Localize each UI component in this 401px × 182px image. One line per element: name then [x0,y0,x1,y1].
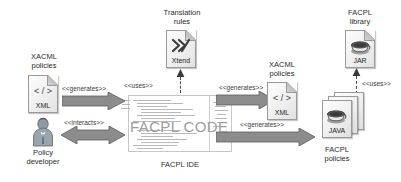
person-icon [30,117,56,147]
translation-rules-label: Translation rules [142,8,222,26]
code-line [133,100,171,101]
coffee-cup-icon [350,38,373,59]
file-fold-icon [47,75,58,86]
code-line [137,148,163,149]
uses-jar-label: <<uses>> [362,80,391,88]
code-line [137,103,183,104]
code-line [133,145,177,146]
xtend-file-icon: Xtend [166,30,196,68]
file-fold-icon [286,82,297,93]
xtend-glyph-icon [167,38,195,57]
code-line [137,106,167,107]
code-line [141,112,181,113]
xml-angle-glyph-icon: < / > [29,86,57,96]
xml-file-icon-in: < / > XML [28,75,58,113]
code-line [141,142,179,143]
code-line [141,136,173,137]
generates-left-label: <<generates>> [62,85,106,93]
generates-xml-label: <<generates>> [219,84,263,92]
interacts-arrow [60,126,126,144]
code-line [217,114,226,115]
jar-badge-label: JAR [346,57,374,64]
xml-badge-label: XML [29,102,57,109]
generates-java-label: <<generates>> [240,121,284,129]
stack-sheet-front: JAVA [322,100,352,138]
code-line [141,109,193,110]
uses-xtend-arrowhead [176,69,185,78]
xacml-policies-in-label: XACML policies [10,52,78,70]
facpl-code-overlay-text: FACPL CODE [130,118,228,135]
interacts-label: <<interacts>> [64,119,104,127]
generates-java-arrow [216,128,316,146]
java-files-stack-icon: JAVA [318,92,370,140]
coffee-cup-icon [326,107,349,128]
code-line [215,110,228,111]
code-line [137,139,187,140]
diagram-canvas: FACPL CODE FACPL IDE Translation rules X… [0,0,401,182]
uses-jar-arrowhead [352,68,361,77]
xml-angle-glyph-icon: < / > [268,93,296,103]
generates-left-arrow [62,92,126,110]
xml-badge-label: XML [268,109,296,116]
uses-xtend-connector [180,77,181,93]
xtend-badge-label: Xtend [167,57,195,64]
facpl-library-label: FACPL library [327,8,393,26]
policy-developer-label: Policy developer [8,148,78,166]
uses-xtend-label: <<uses>> [124,82,153,90]
code-line [137,115,195,116]
java-facpl-policies-label: FACPL policies [302,145,372,163]
facpl-ide-caption: FACPL IDE [140,160,220,169]
java-badge-label: JAVA [323,127,351,134]
xacml-policies-out-label: XACML policies [249,60,315,78]
xml-file-icon-out: < / > XML [267,82,297,120]
jar-file-icon: JAR [345,30,375,68]
